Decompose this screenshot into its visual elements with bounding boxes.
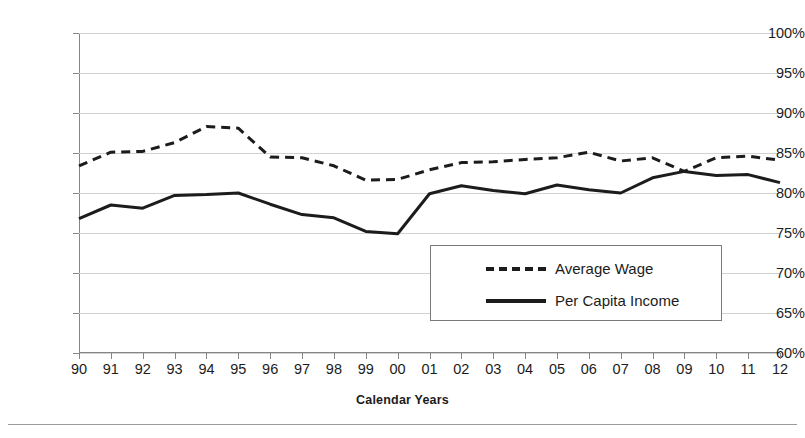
- chart-container: 100%95%90%85%80%75%70%65%60% 90919293949…: [0, 0, 805, 438]
- solid-line-swatch-icon: [486, 299, 546, 303]
- legend-item-average-wage: Average Wage: [431, 254, 723, 284]
- dashed-line-swatch-icon: [486, 267, 546, 271]
- x-axis-title: Calendar Years: [0, 393, 805, 407]
- legend-item-per-capita-income: Per Capita Income: [431, 286, 723, 316]
- legend-label-per-capita-income: Per Capita Income: [555, 290, 679, 312]
- chart-legend: Average Wage Per Capita Income: [430, 245, 722, 321]
- series-layer: [0, 0, 805, 438]
- series-line-per-capita-income: [79, 171, 780, 233]
- legend-label-average-wage: Average Wage: [555, 258, 653, 280]
- footer-divider: [8, 424, 797, 425]
